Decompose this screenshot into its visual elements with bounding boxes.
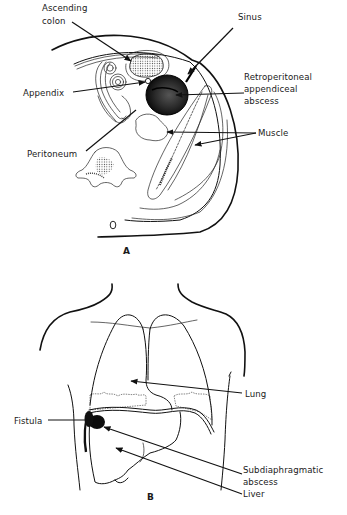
sinus-tract: [186, 66, 196, 82]
figure-a: Ascending colon Sinus Appendix Retroperi…: [23, 3, 312, 256]
right-lung-outline: [90, 315, 143, 405]
mesentery-blob: [136, 114, 168, 141]
mediastinum-line-2: [148, 329, 150, 380]
label-retroperitoneal-1: Retroperitoneal: [244, 72, 312, 82]
leader-appendix: [73, 82, 145, 92]
label-ascending-colon-2: colon: [42, 16, 66, 26]
anatomy-figure: Ascending colon Sinus Appendix Retroperi…: [0, 0, 347, 515]
leader-muscle-2: [195, 133, 256, 145]
leader-sinus: [188, 28, 233, 74]
label-retroperitoneal-3: abscess: [244, 96, 279, 106]
label-liver: Liver: [243, 489, 265, 499]
ascending-colon: [130, 54, 164, 77]
small-structure-o: [110, 221, 116, 229]
label-subdiaphragmatic-2: abscess: [243, 477, 278, 487]
leader-subdiaphragmatic: [104, 427, 242, 474]
bowel-loops: [96, 62, 131, 123]
label-sinus: Sinus: [238, 12, 262, 22]
leader-peritoneum: [86, 110, 136, 151]
left-shoulder-outline: [40, 284, 112, 350]
clavicle-line: [91, 320, 197, 328]
label-muscle: Muscle: [258, 128, 288, 138]
leader-muscle-1: [167, 132, 256, 133]
figure-b: Lung Fistula Subdiaphragmatic abscess Li…: [14, 284, 324, 502]
label-ascending-colon-1: Ascending: [42, 3, 87, 13]
label-peritoneum: Peritoneum: [27, 149, 77, 159]
right-chest-side: [221, 376, 230, 490]
label-fistula: Fistula: [14, 416, 42, 426]
label-lung: Lung: [245, 389, 266, 399]
mediastinum-line: [143, 329, 172, 410]
left-chest-side: [68, 385, 80, 490]
caption-b: B: [147, 492, 154, 502]
label-subdiaphragmatic-1: Subdiaphragmatic: [243, 465, 324, 475]
caption-a: A: [123, 246, 130, 256]
lung-base-texture-left: [174, 392, 212, 420]
right-shoulder-outline: [178, 284, 245, 376]
label-appendix: Appendix: [23, 88, 64, 98]
left-lung-outline: [150, 315, 212, 425]
label-retroperitoneal-2: appendiceal: [244, 84, 298, 94]
